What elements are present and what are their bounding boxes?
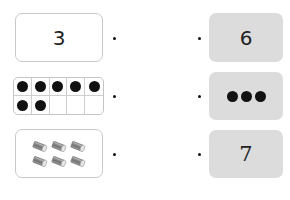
- tin-can-icon: [49, 154, 68, 170]
- tin-can-icon: [30, 138, 49, 154]
- counter-icon: [89, 81, 100, 92]
- tin-can-icon: [49, 138, 68, 154]
- ten-frame-cell: [32, 96, 50, 114]
- left-match-dot-2[interactable]: [113, 95, 116, 98]
- numeral-label: 3: [53, 28, 66, 48]
- dot-group: [227, 91, 266, 102]
- ten-frame-cell: [85, 96, 103, 114]
- right-match-dot-3[interactable]: [198, 153, 201, 156]
- left-match-dot-1[interactable]: [113, 37, 116, 40]
- counter-icon: [17, 100, 28, 111]
- counter-icon: [52, 81, 63, 92]
- ten-frame-cell: [85, 78, 103, 96]
- ten-frame-cell: [14, 78, 32, 96]
- counter-icon: [17, 81, 28, 92]
- tin-can-icon: [69, 154, 88, 170]
- numeral-label: 7: [239, 142, 252, 166]
- counter-icon: [35, 81, 46, 92]
- counter-icon: [70, 81, 81, 92]
- ten-frame-cell: [50, 78, 68, 96]
- ten-frame-cell: [32, 78, 50, 96]
- ten-frame-cell: [50, 96, 68, 114]
- right-match-dot-1[interactable]: [198, 37, 201, 40]
- ten-frame-cell: [67, 96, 85, 114]
- tin-can-icon: [69, 138, 88, 154]
- right-card-numeral-7[interactable]: 7: [209, 130, 283, 178]
- right-card-dots[interactable]: [209, 72, 283, 120]
- left-card-tins[interactable]: [15, 129, 103, 178]
- dot-icon: [255, 91, 266, 102]
- left-card-ten-frame[interactable]: [13, 77, 104, 115]
- tin-can-icon: [30, 154, 49, 170]
- numeral-label: 6: [240, 28, 253, 48]
- right-card-numeral-6[interactable]: 6: [209, 13, 283, 62]
- dot-icon: [227, 91, 238, 102]
- counter-icon: [35, 100, 46, 111]
- right-match-dot-2[interactable]: [198, 95, 201, 98]
- left-match-dot-3[interactable]: [113, 153, 116, 156]
- ten-frame-cell: [67, 78, 85, 96]
- dot-icon: [241, 91, 252, 102]
- left-card-numeral[interactable]: 3: [15, 13, 103, 62]
- ten-frame-cell: [14, 96, 32, 114]
